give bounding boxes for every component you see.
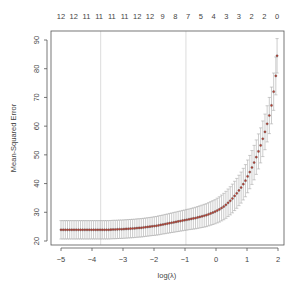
top-tick-label: 2 bbox=[262, 12, 266, 21]
top-tick-label: 3 bbox=[237, 12, 241, 21]
top-tick-label: 12 bbox=[133, 12, 141, 21]
y-tick-label: 60 bbox=[32, 122, 41, 130]
top-tick-label: 8 bbox=[173, 12, 177, 21]
y-tick-label: 50 bbox=[32, 151, 41, 159]
top-tick-label: 12 bbox=[57, 12, 65, 21]
x-axis: −5−4−3−2−1012 bbox=[57, 248, 280, 264]
x-tick-label: 1 bbox=[245, 255, 249, 264]
top-tick-label: 12 bbox=[70, 12, 78, 21]
y-tick-label: 20 bbox=[32, 237, 41, 245]
x-tick-label: 2 bbox=[276, 255, 280, 264]
x-tick-label: −2 bbox=[150, 255, 159, 264]
top-tick-label: 2 bbox=[250, 12, 254, 21]
x-tick-label: 0 bbox=[214, 255, 218, 264]
y-tick-label: 90 bbox=[32, 36, 41, 44]
x-axis-label: log(λ) bbox=[158, 271, 177, 280]
top-tick-label: 11 bbox=[83, 12, 91, 21]
x-tick-label: −1 bbox=[181, 255, 190, 264]
x-tick-label: −3 bbox=[119, 255, 128, 264]
top-axis-nonzero-counts: 12121111111112129875433220 bbox=[57, 12, 279, 21]
y-tick-label: 70 bbox=[32, 93, 41, 101]
y-axis: 2030405060708090 bbox=[32, 36, 47, 245]
top-tick-label: 0 bbox=[275, 12, 279, 21]
top-tick-label: 3 bbox=[224, 12, 228, 21]
y-tick-label: 40 bbox=[32, 179, 41, 187]
top-tick-label: 9 bbox=[161, 12, 165, 21]
plot-frame bbox=[51, 31, 284, 245]
top-tick-label: 5 bbox=[199, 12, 203, 21]
error-bars bbox=[59, 39, 278, 239]
top-tick-label: 7 bbox=[186, 12, 190, 21]
top-tick-label: 4 bbox=[211, 12, 215, 21]
top-tick-label: 11 bbox=[108, 12, 116, 21]
x-tick-label: −5 bbox=[57, 255, 66, 264]
top-tick-label: 11 bbox=[121, 12, 129, 21]
x-tick-label: −4 bbox=[88, 255, 97, 264]
cv-mse-chart: 12121111111112129875433220 −5−4−3−2−1012… bbox=[0, 0, 302, 298]
top-tick-label: 12 bbox=[146, 12, 154, 21]
y-tick-label: 30 bbox=[32, 208, 41, 216]
top-tick-label: 11 bbox=[95, 12, 103, 21]
y-tick-label: 80 bbox=[32, 65, 41, 73]
mse-points bbox=[60, 55, 278, 231]
y-axis-label: Mean-Squared Error bbox=[9, 103, 18, 172]
